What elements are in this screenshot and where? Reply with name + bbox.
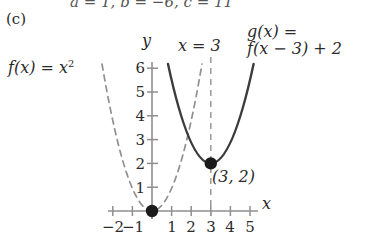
xtick-label: −2 bbox=[102, 218, 124, 236]
ytick-label: 6 bbox=[135, 59, 145, 77]
xtick-label: 5 bbox=[245, 218, 255, 236]
ytick-label: 2 bbox=[135, 155, 145, 173]
curve-g-label-line2: f(x − 3) + 2 bbox=[247, 41, 342, 58]
x-axis-label: x bbox=[262, 196, 271, 213]
vertical-line-label: x = 3 bbox=[178, 38, 221, 55]
curve-f-label-text: f(x) = x bbox=[8, 58, 68, 77]
xtick-label: 3 bbox=[206, 218, 216, 236]
curve-f-label: f(x) = x2 bbox=[8, 60, 74, 77]
curve-f-label-exponent: 2 bbox=[68, 58, 74, 69]
y-axis-label: y bbox=[142, 33, 151, 50]
figure-panel: a = 1, b = −6, c = 11 (c) bbox=[0, 0, 367, 242]
xtick-label: −1 bbox=[122, 218, 144, 236]
curve-g-label: g(x) = f(x − 3) + 2 bbox=[247, 24, 342, 58]
xtick-label: 1 bbox=[167, 218, 177, 236]
ytick-label: 3 bbox=[135, 131, 145, 149]
ytick-label: 1 bbox=[135, 179, 145, 197]
ytick-label: 4 bbox=[135, 107, 145, 125]
xtick-label: 2 bbox=[186, 218, 196, 236]
ytick-label: 5 bbox=[135, 83, 145, 101]
point-label: (3, 2) bbox=[212, 169, 255, 186]
xtick-label: 4 bbox=[225, 218, 235, 236]
point-origin bbox=[146, 205, 158, 217]
